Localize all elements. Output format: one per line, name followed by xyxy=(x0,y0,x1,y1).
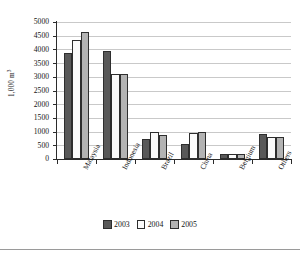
x-axis-label-belgium: Belgium xyxy=(237,167,245,171)
y-axis-tick-label: 4000 xyxy=(9,45,49,54)
x-axis-tick-mark xyxy=(96,159,97,164)
legend-label-2003: 2003 xyxy=(114,220,130,229)
bar-others-2004 xyxy=(267,137,275,159)
x-axis-label-malaysia: Malaysia xyxy=(81,167,89,171)
bar-brazil-2003 xyxy=(142,139,150,159)
y-axis-tick-label: 4500 xyxy=(9,31,49,40)
bar-china-2004 xyxy=(189,133,197,159)
y-axis-tick-label: 500 xyxy=(9,141,49,150)
legend-swatch-2005 xyxy=(170,220,179,229)
y-axis-tick-label: 2500 xyxy=(9,86,49,95)
bar-malaysia-2005 xyxy=(81,32,89,159)
legend-label-2004: 2004 xyxy=(148,220,164,229)
chart-legend: 200320042005 xyxy=(0,220,300,229)
x-axis-label-indonesia: Indonesia xyxy=(120,167,128,171)
x-axis-tick-mark xyxy=(291,159,292,164)
x-axis-tick-mark xyxy=(57,159,58,164)
bar-china-2003 xyxy=(181,144,189,159)
y-axis-tick-label: 1500 xyxy=(9,113,49,122)
plot-area xyxy=(57,22,291,159)
legend-swatch-2003 xyxy=(103,220,112,229)
legend-item-2005: 2005 xyxy=(170,220,197,229)
bar-indonesia-2004 xyxy=(111,74,119,159)
x-axis-label-china: China xyxy=(198,167,206,171)
x-axis-label-brazil: Brazil xyxy=(159,167,167,171)
bar-brazil-2004 xyxy=(150,132,158,159)
y-axis-tick-label: 2000 xyxy=(9,100,49,109)
bar-indonesia-2005 xyxy=(120,74,128,159)
y-axis-tick-label: 0 xyxy=(9,154,49,163)
legend-swatch-2004 xyxy=(137,220,146,229)
bar-malaysia-2003 xyxy=(64,53,72,159)
bar-belgium-2003 xyxy=(220,154,228,159)
x-axis-tick-mark xyxy=(213,159,214,164)
y-axis-tick-label: 1000 xyxy=(9,127,49,136)
legend-item-2003: 2003 xyxy=(103,220,130,229)
bar-indonesia-2003 xyxy=(103,51,111,159)
y-axis-tick-label: 3000 xyxy=(9,72,49,81)
bar-others-2003 xyxy=(259,134,267,159)
bar-belgium-2004 xyxy=(228,154,236,159)
x-axis-label-others: Others xyxy=(276,167,284,171)
legend-label-2005: 2005 xyxy=(181,220,197,229)
page-divider-rule xyxy=(0,249,300,250)
x-axis-tick-mark xyxy=(174,159,175,164)
bar-chart-figure: 1,000 m3 5000450040003500300025002000150… xyxy=(0,0,300,259)
legend-item-2004: 2004 xyxy=(137,220,164,229)
y-axis-tick-label: 5000 xyxy=(9,17,49,26)
y-axis-tick-label: 3500 xyxy=(9,59,49,68)
x-axis-tick-mark xyxy=(252,159,253,164)
bar-malaysia-2004 xyxy=(72,40,80,159)
x-axis-tick-mark xyxy=(135,159,136,164)
